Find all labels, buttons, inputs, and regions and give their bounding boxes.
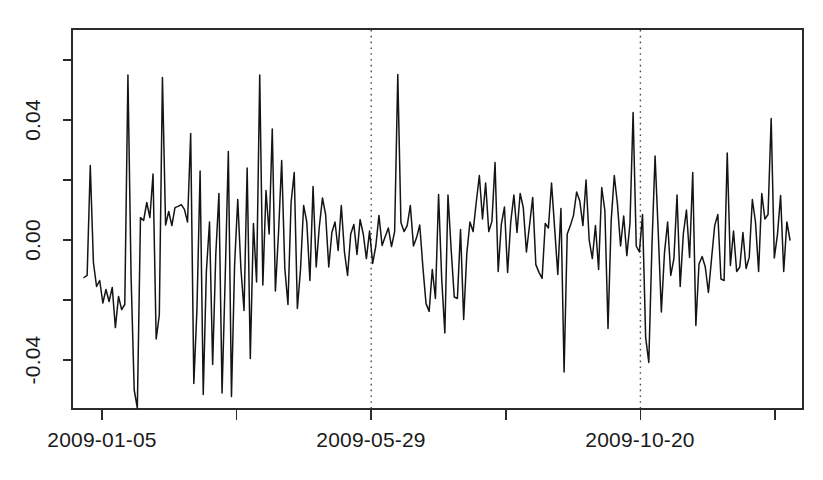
- y-tick-label-1: 0.00: [21, 219, 45, 261]
- y-tick-label-2: -0.04: [21, 336, 45, 385]
- x-tick-label-2: 2009-05-29: [316, 428, 425, 452]
- y-axis-ticks: [63, 60, 72, 360]
- series-group: [84, 74, 790, 408]
- y-tick-label-0: 0.04: [21, 99, 45, 141]
- x-tick-label-0: 2009-01-05: [47, 428, 156, 452]
- series-line-daily-return: [84, 74, 790, 408]
- chart-canvas: [0, 0, 823, 480]
- plot-root: 0.04 0.00 -0.04 2009-01-05 2009-05-29 20…: [0, 0, 823, 480]
- x-tick-label-4: 2009-10-20: [585, 428, 694, 452]
- x-axis-ticks: [102, 409, 775, 420]
